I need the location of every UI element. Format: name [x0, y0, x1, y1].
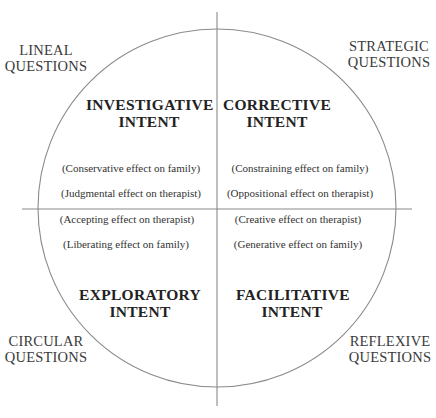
exploratory-intent-title: EXPLORATORY INTENT	[78, 286, 202, 321]
intent-title-line: INTENT	[78, 303, 202, 320]
intent-title-line: EXPLORATORY	[78, 286, 202, 303]
corner-label-line: QUESTIONS	[345, 54, 433, 70]
facilitative-intent-title: FACILITATIVE INTENT	[236, 286, 348, 321]
corner-label-line: CIRCULAR	[4, 333, 88, 349]
liberating-effect-text: (Liberating effect on family)	[56, 238, 196, 250]
conservative-effect-text: (Conservative effect on family)	[56, 162, 206, 174]
intent-title-line: INTENT	[222, 113, 332, 130]
circular-questions-label: CIRCULAR QUESTIONS	[4, 333, 88, 365]
oppositional-effect-text: (Oppositional effect on therapist)	[220, 187, 380, 199]
intent-title-line: INVESTIGATIVE	[86, 96, 212, 113]
creative-effect-text: (Creative effect on therapist)	[228, 213, 368, 225]
judgmental-effect-text: (Judgmental effect on therapist)	[52, 187, 210, 199]
intent-title-line: INTENT	[86, 113, 212, 130]
corner-label-line: QUESTIONS	[4, 349, 88, 365]
corner-label-line: QUESTIONS	[4, 58, 88, 74]
corner-label-line: STRATEGIC	[345, 38, 433, 54]
intent-title-line: INTENT	[236, 303, 348, 320]
corner-label-line: REFLEXIVE	[346, 333, 434, 349]
reflexive-questions-label: REFLEXIVE QUESTIONS	[346, 333, 434, 365]
generative-effect-text: (Generative effect on family)	[228, 238, 368, 250]
corrective-intent-title: CORRECTIVE INTENT	[222, 96, 332, 131]
intent-question-diagram: LINEAL QUESTIONS STRATEGIC QUESTIONS CIR…	[0, 0, 436, 418]
corner-label-line: QUESTIONS	[346, 349, 434, 365]
strategic-questions-label: STRATEGIC QUESTIONS	[345, 38, 433, 70]
investigative-intent-title: INVESTIGATIVE INTENT	[86, 96, 212, 131]
accepting-effect-text: (Accepting effect on therapist)	[52, 213, 202, 225]
intent-title-line: FACILITATIVE	[236, 286, 348, 303]
corner-label-line: LINEAL	[4, 42, 88, 58]
lineal-questions-label: LINEAL QUESTIONS	[4, 42, 88, 74]
intent-title-line: CORRECTIVE	[222, 96, 332, 113]
constraining-effect-text: (Constraining effect on family)	[226, 162, 374, 174]
